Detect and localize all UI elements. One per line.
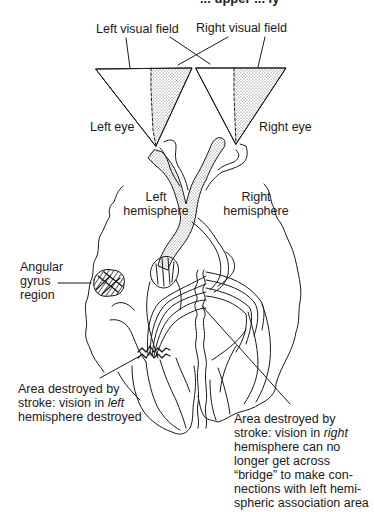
optic-radiations-right	[206, 272, 271, 404]
label-right-stroke-line5: “bridge” to make con-	[234, 468, 369, 482]
label-right-stroke-line6: nections with left hemi-	[234, 482, 369, 496]
right-field-leader-cross	[178, 37, 228, 65]
label-right-stroke-line2-pre: stroke: vision in	[234, 426, 324, 440]
label-right-hemisphere-line2: hemisphere	[216, 204, 296, 218]
left-field-leader	[126, 38, 130, 68]
label-left-stroke-line2: stroke: vision in left	[18, 396, 142, 410]
label-right-stroke-line4: longer get across	[234, 454, 369, 468]
label-left-hemisphere: Left hemisphere	[116, 190, 196, 218]
label-right-stroke-line3: hemisphere can no	[234, 440, 369, 454]
right-hemisphere-outline	[198, 184, 301, 422]
label-right-stroke-emphasis: right	[324, 426, 348, 440]
label-left-stroke-emphasis: left	[108, 396, 125, 410]
right-stroke-leader	[202, 306, 290, 404]
label-right-stroke: Area destroyed by stroke: vision in righ…	[234, 412, 369, 510]
label-right-stroke-line2: stroke: vision in right	[234, 426, 369, 440]
corpus-callosum-right-edge	[203, 270, 207, 428]
label-angular-gyrus: Angular gyrus region	[20, 260, 63, 302]
angular-gyrus-region	[94, 269, 125, 296]
label-left-hemisphere-line1: Left	[116, 190, 196, 204]
label-right-hemisphere-line1: Right	[216, 190, 296, 204]
label-angular-gyrus-line2: gyrus	[20, 274, 63, 288]
label-left-stroke-line3: hemisphere destroyed	[18, 410, 142, 424]
label-right-stroke-line1: Area destroyed by	[234, 412, 369, 426]
label-left-stroke-line1: Area destroyed by	[18, 382, 142, 396]
optic-radiations-left	[110, 276, 206, 362]
label-right-visual-field: Right visual field	[196, 21, 287, 35]
label-left-stroke: Area destroyed by stroke: vision in left…	[18, 382, 142, 424]
label-left-eye: Left eye	[90, 120, 134, 134]
label-right-stroke-line7: spheric association area	[234, 496, 369, 510]
label-right-eye: Right eye	[259, 120, 312, 134]
label-left-visual-field: Left visual field	[96, 22, 179, 36]
left-eye-visual-field	[96, 68, 192, 146]
caption-cut-off: ... upper ... ly	[200, 0, 279, 6]
label-right-hemisphere: Right hemisphere	[216, 190, 296, 218]
label-angular-gyrus-line1: Angular	[20, 260, 63, 274]
label-left-stroke-line2-pre: stroke: vision in	[18, 396, 108, 410]
label-angular-gyrus-line3: region	[20, 288, 63, 302]
label-left-hemisphere-line2: hemisphere	[116, 204, 196, 218]
right-field-leader	[258, 37, 265, 67]
